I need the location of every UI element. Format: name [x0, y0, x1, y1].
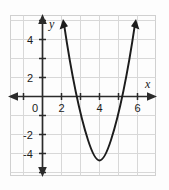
graph-figure: 4 2 -2 -4 0 2 4 6 y x: [0, 0, 169, 190]
y-tick-label-neg2: -2: [23, 129, 33, 141]
y-tick-label-neg4: -4: [23, 148, 33, 160]
x-tick-label-4: 4: [96, 102, 102, 114]
y-tick-label-2: 2: [27, 72, 33, 84]
coordinate-plane-svg: 4 2 -2 -4 0 2 4 6 y x: [0, 0, 169, 190]
y-tick-label-4: 4: [27, 34, 33, 46]
x-axis-left-arrowhead: [8, 92, 18, 101]
y-axis-label: y: [48, 17, 55, 31]
x-tick-label-2: 2: [58, 102, 64, 114]
origin-label: 0: [32, 102, 38, 114]
x-axis-label: x: [144, 77, 151, 91]
x-tick-label-6: 6: [134, 102, 140, 114]
